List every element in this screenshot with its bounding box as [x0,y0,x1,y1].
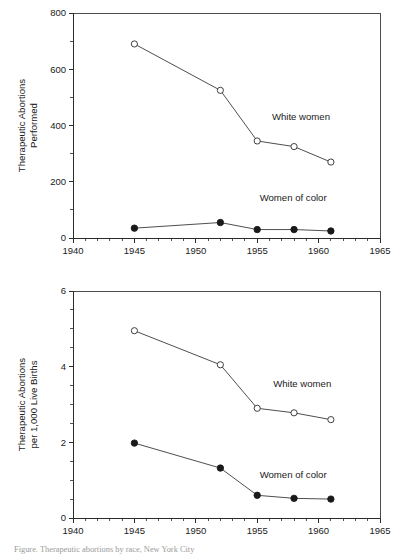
y-tick-label: 4 [61,361,66,372]
figure-caption: Figure. Therapeutic abortions by race, N… [14,545,394,555]
data-point-women-of-color [254,492,260,498]
x-tick-label: 1950 [185,245,206,256]
y-axis-title-line2: Performed [28,103,39,148]
x-tick-label: 1960 [308,525,329,536]
x-tick-label: 1955 [247,245,268,256]
plot-frame [73,13,380,238]
x-tick-label: 1965 [369,525,390,536]
y-axis-title: Therapeutic AbortionsPerformed [16,79,39,173]
plot-frame [73,291,380,518]
y-axis-title-line1: Therapeutic Abortions [16,79,27,173]
x-tick-label: 1955 [247,525,268,536]
chart-therapeutic-abortions-per-1000: 0246194019451950195519601965White womenW… [0,279,402,539]
data-point-women-of-color [254,226,260,232]
data-point-white-women [217,87,223,93]
y-tick-label: 6 [61,285,66,296]
y-tick-label: 200 [50,176,66,187]
series-annotation-white-women: White women [273,378,331,389]
data-point-women-of-color [131,440,137,446]
data-point-women-of-color [291,226,297,232]
y-tick-label: 2 [61,437,66,448]
series-line-white-women [134,44,330,162]
figure-root: 0200400600800194019451950195519601965Whi… [0,0,402,559]
x-tick-label: 1945 [124,245,145,256]
x-tick-label: 1940 [62,245,83,256]
series-annotation-women-of-color: Women of color [260,192,328,203]
data-point-women-of-color [217,465,223,471]
data-point-white-women [254,138,260,144]
y-axis-title: Therapeutic Abortionsper 1,000 Live Birt… [16,358,39,452]
series-line-women-of-color [134,223,330,231]
y-axis-title-line2: per 1,000 Live Births [28,360,39,448]
x-tick-label: 1950 [185,525,206,536]
y-tick-label: 800 [50,7,66,18]
y-tick-label: 400 [50,120,66,131]
chart-bottom-canvas: 0246194019451950195519601965White womenW… [0,279,402,539]
data-point-white-women [291,410,297,416]
chart-therapeutic-abortions-performed: 0200400600800194019451950195519601965Whi… [0,0,402,279]
data-point-women-of-color [328,496,334,502]
chart-top-canvas: 0200400600800194019451950195519601965Whi… [0,0,402,279]
x-tick-label: 1940 [62,525,83,536]
y-axis-title-line1: Therapeutic Abortions [16,358,27,452]
series-line-white-women [134,331,330,420]
data-point-white-women [328,417,334,423]
data-point-white-women [254,405,260,411]
y-tick-label: 600 [50,64,66,75]
data-point-white-women [217,362,223,368]
data-point-white-women [291,143,297,149]
series-annotation-white-women: White women [272,111,330,122]
data-point-white-women [131,41,137,47]
data-point-women-of-color [217,219,223,225]
x-tick-label: 1960 [308,245,329,256]
data-point-women-of-color [131,225,137,231]
x-tick-label: 1965 [369,245,390,256]
y-tick-label: 0 [61,512,66,523]
data-point-white-women [328,159,334,165]
data-point-women-of-color [328,228,334,234]
y-tick-label: 0 [61,232,66,243]
x-tick-label: 1945 [124,525,145,536]
data-point-white-women [131,328,137,334]
series-annotation-women-of-color: Women of color [260,469,328,480]
data-point-women-of-color [291,495,297,501]
